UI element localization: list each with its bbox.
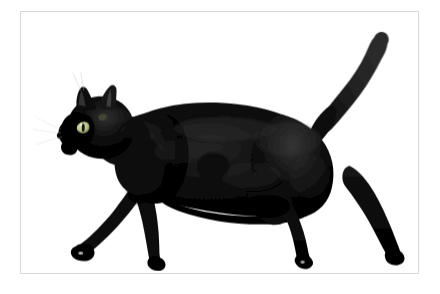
hind-paw-near-highlight (300, 260, 304, 263)
front-paw-extended-highlight (78, 251, 83, 254)
eye-glint (80, 124, 82, 126)
photo-frame: A black cat walking to the left, seen fr… (20, 11, 419, 274)
cat-photo-image: A black cat walking to the left, seen fr… (21, 12, 418, 273)
